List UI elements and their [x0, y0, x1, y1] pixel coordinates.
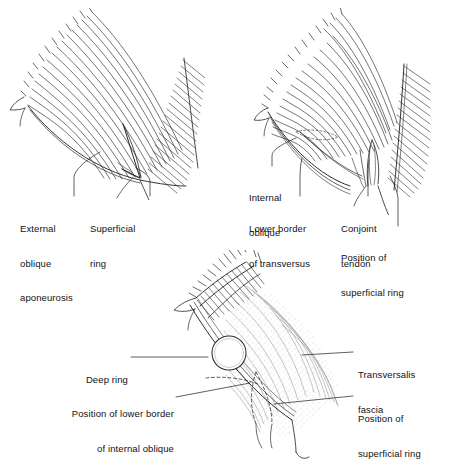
panel-external-oblique-drawing [10, 6, 205, 230]
leader-conjoint-tendon [368, 160, 369, 196]
label-line-2: superficial ring [341, 287, 404, 299]
label-line-1: Superficial [90, 223, 135, 235]
label-line-1: Position of lower border [14, 408, 174, 420]
external-oblique-fibers [10, 6, 205, 230]
label-line-1: Transversalis [358, 369, 415, 381]
leader-lower-border-transversus [300, 158, 302, 196]
label-superficial-ring: Superficial ring [90, 200, 135, 292]
label-position-of-lower-border-of-internal-oblique: Position of lower border of internal obl… [14, 385, 174, 473]
label-line-1: Position of [341, 252, 404, 264]
label-lower-border-of-transversus: Lower border of transversus [249, 200, 310, 292]
label-line-3: aponeurosis [20, 292, 73, 304]
label-line-1: Deep ring [40, 374, 128, 386]
label-line-1: Position of [358, 413, 421, 425]
leader-internal-oblique [272, 138, 296, 166]
label-line-2: oblique [20, 258, 73, 270]
label-line-2: superficial ring [358, 448, 421, 460]
label-line-2: of internal oblique [14, 443, 174, 455]
label-line-2: ring [90, 258, 135, 270]
label-line-2: of transversus [249, 258, 310, 270]
label-line-1: External [20, 223, 73, 235]
anatomy-figure: External oblique aponeurosis Superficial… [0, 0, 455, 473]
label-position-of-superficial-ring-bottom: Position of superficial ring [358, 390, 421, 473]
label-position-of-superficial-ring: Position of superficial ring [341, 229, 404, 321]
label-external-oblique-aponeurosis: External oblique aponeurosis [20, 200, 73, 327]
label-line-1: Lower border [249, 223, 310, 235]
